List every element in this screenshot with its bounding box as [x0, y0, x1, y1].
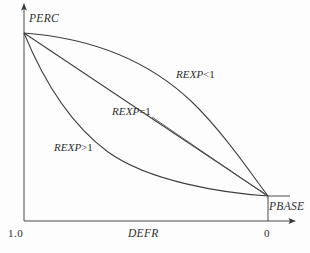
x-axis-tick-right: 0 [264, 227, 270, 239]
annotation-rexp-less-than-1-value: 1 [209, 68, 215, 80]
annotation-rexp-less-than-1-name: REXP [176, 68, 203, 80]
annotation-rexp-greater-than-1-name: REXP [54, 141, 81, 153]
pbase-label: PBASE [269, 200, 304, 212]
rexp-equal-1-leader-line [152, 117, 266, 195]
x-axis-tick-left: 1.0 [8, 227, 23, 239]
chart-figure: PERC DEFR 1.0 0 PBASE REXP<1 REXP=1 REXP… [0, 0, 310, 253]
annotation-rexp-equal-1-value: 1 [145, 105, 151, 117]
x-axis-label: DEFR [128, 227, 159, 239]
annotation-rexp-greater-than-1: REXP>1 [54, 141, 93, 153]
annotation-rexp-greater-than-1-value: 1 [87, 141, 93, 153]
chart-plot-area [0, 0, 310, 253]
annotation-rexp-equal-1: REXP=1 [112, 105, 151, 117]
annotation-rexp-equal-1-name: REXP [112, 105, 139, 117]
y-axis-label: PERC [29, 12, 59, 24]
annotation-rexp-less-than-1: REXP<1 [176, 68, 215, 80]
